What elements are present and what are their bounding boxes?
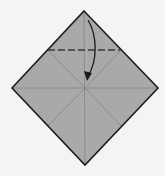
origami-diagram xyxy=(0,0,165,176)
